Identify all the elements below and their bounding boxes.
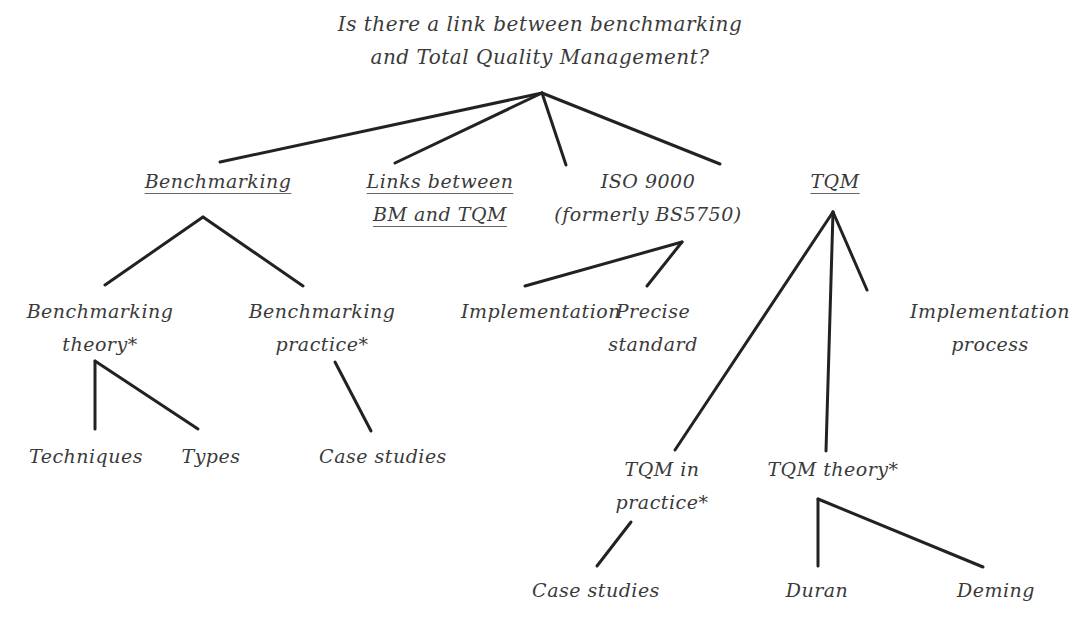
node-label-line-1: Benchmarking <box>249 295 396 328</box>
edge-iso-precise <box>647 242 682 286</box>
node-label-line-1: Benchmarking <box>27 295 174 328</box>
node-label-line-1: Implementation <box>910 295 1070 328</box>
node-duran: Duran <box>786 574 849 607</box>
node-label-line-1: TQM in <box>616 453 709 486</box>
node-tqm-in-practice: TQM in practice* <box>616 453 709 519</box>
edge-tqm-implementation <box>833 212 867 290</box>
node-label: Types <box>181 440 240 473</box>
node-label-line-1: ISO 9000 <box>554 165 741 198</box>
node-label-line-2: BM and TQM <box>367 198 514 231</box>
node-label: TQM theory* <box>767 453 898 486</box>
node-label: Implementation <box>461 295 621 328</box>
node-tqm: TQM <box>810 165 859 198</box>
edge-benchmarking-practice <box>203 217 303 286</box>
edge-root-iso <box>542 93 566 165</box>
node-benchmarking: Benchmarking <box>145 165 292 198</box>
edge-practice-casestudies <box>335 362 371 431</box>
node-label: Techniques <box>29 440 143 473</box>
root-question: Is there a link between benchmarking and… <box>338 8 742 74</box>
edge-root-tqm <box>542 93 720 164</box>
node-iso-implementation: Implementation <box>461 295 621 328</box>
edge-root-benchmarking <box>220 93 542 162</box>
node-precise-standard: Precise standard <box>608 295 698 361</box>
node-label: Duran <box>786 574 849 607</box>
node-label-line-1: Links between <box>367 165 514 198</box>
node-label-line-2: practice* <box>616 486 709 519</box>
edge-iso-implementation <box>525 242 682 286</box>
tree-diagram: Is there a link between benchmarking and… <box>0 0 1077 625</box>
edge-tqmpractice-casestudies <box>597 522 631 566</box>
node-label: Benchmarking <box>145 165 292 198</box>
edge-theory-types <box>95 361 198 429</box>
node-types: Types <box>181 440 240 473</box>
node-tqm-theory: TQM theory* <box>767 453 898 486</box>
node-label: Case studies <box>532 574 660 607</box>
node-techniques: Techniques <box>29 440 143 473</box>
node-iso-9000: ISO 9000 (formerly BS5750) <box>554 165 741 231</box>
edge-tqm-practice <box>675 212 833 450</box>
node-label-line-1: Precise <box>608 295 698 328</box>
root-question-line-1: Is there a link between benchmarking <box>338 8 742 41</box>
node-deming: Deming <box>957 574 1035 607</box>
edge-benchmarking-theory <box>105 217 203 285</box>
node-label: Deming <box>957 574 1035 607</box>
node-label-line-2: (formerly BS5750) <box>554 198 741 231</box>
edge-tqm-theory <box>826 212 833 451</box>
node-links-bm-tqm: Links between BM and TQM <box>367 165 514 231</box>
node-label: TQM <box>810 165 859 198</box>
root-question-line-2: and Total Quality Management? <box>338 41 742 74</box>
node-bm-case-studies: Case studies <box>319 440 447 473</box>
node-label-line-2: process <box>910 328 1070 361</box>
edge-tqmtheory-deming <box>818 499 983 567</box>
node-tqm-implementation-process: Implementation process <box>910 295 1070 361</box>
node-benchmarking-theory: Benchmarking theory* <box>27 295 174 361</box>
edge-root-links <box>395 93 542 163</box>
node-tqm-case-studies: Case studies <box>532 574 660 607</box>
node-label-line-2: theory* <box>27 328 174 361</box>
node-benchmarking-practice: Benchmarking practice* <box>249 295 396 361</box>
node-label: Case studies <box>319 440 447 473</box>
node-label-line-2: standard <box>608 328 698 361</box>
node-label-line-2: practice* <box>249 328 396 361</box>
